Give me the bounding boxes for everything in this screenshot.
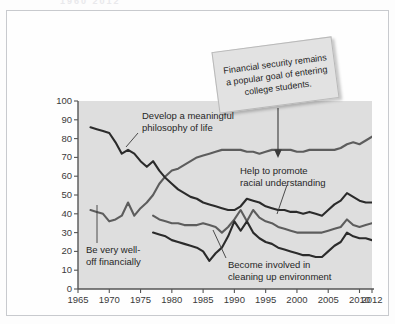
annotation-racial-line1: Help to promote [240, 165, 326, 177]
series-line-2 [153, 210, 372, 233]
annotation-environment-line1: Become involved in [228, 259, 332, 271]
y-tick-70: 70 [44, 152, 72, 162]
series-line-1 [91, 127, 372, 215]
annotation-financial: Be very well- off financially [86, 244, 141, 267]
y-tick-0: 0 [44, 284, 72, 294]
y-tick-40: 40 [44, 209, 72, 219]
y-tick-20: 20 [44, 246, 72, 256]
y-tick-60: 60 [44, 171, 72, 181]
annotation-racial-line2: racial understanding [240, 177, 326, 189]
annotation-financial-line1: Be very well- [86, 244, 141, 256]
y-tick-10: 10 [44, 265, 72, 275]
y-tick-90: 90 [44, 115, 72, 125]
x-tick-2012: 2012 [354, 294, 390, 305]
annotation-financial-line2: off financially [86, 256, 141, 268]
y-tick-80: 80 [44, 134, 72, 144]
annotation-philosophy-line2: philosophy of life [142, 122, 234, 134]
running-head: 1960 2012 [60, 0, 200, 8]
y-tick-30: 30 [44, 228, 72, 238]
figure-container: 1960 2012 Percentage who identify goal a… [0, 0, 395, 324]
annotation-racial: Help to promote racial understanding [240, 165, 326, 188]
y-tick-50: 50 [44, 190, 72, 200]
y-tick-100: 100 [44, 96, 72, 106]
annotation-environment-line2: cleaning up environment [228, 271, 332, 283]
annotation-environment: Become involved in cleaning up environme… [228, 259, 332, 282]
